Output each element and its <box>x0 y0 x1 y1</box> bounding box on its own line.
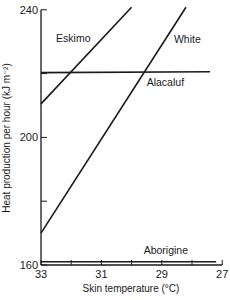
series-line-eskimo <box>41 7 132 104</box>
x-tick-label: 29 <box>156 268 168 280</box>
series-label-eskimo: Eskimo <box>56 32 91 44</box>
x-axis-title: Skin temperature (°C) <box>83 283 180 294</box>
series-lines <box>41 7 216 262</box>
y-tick-label: 240 <box>20 4 38 16</box>
y-axis-title: Heat production per hour (kJ m⁻²) <box>1 63 12 213</box>
series-line-alacaluf <box>41 72 210 73</box>
x-tick-label: 27 <box>216 268 228 280</box>
x-tick-label: 31 <box>95 268 107 280</box>
series-label-white: White <box>174 33 201 45</box>
series-label-alacaluf: Alacaluf <box>147 76 184 88</box>
y-tick-label: 200 <box>20 131 38 143</box>
series-label-aborigine: Aborigine <box>144 244 189 256</box>
line-chart: 16020024033312927 EskimoWhiteAlacalufAbo… <box>0 0 230 300</box>
x-tick-label: 33 <box>35 268 47 280</box>
